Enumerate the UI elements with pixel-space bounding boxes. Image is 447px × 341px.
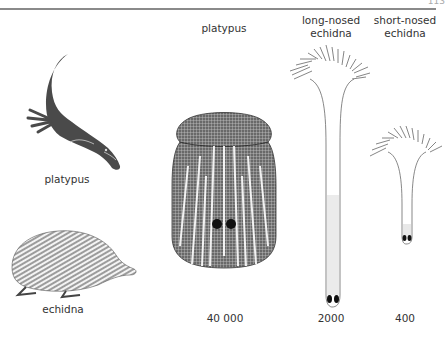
platypus-caption: platypus <box>42 173 92 186</box>
platypus-bill-illustration <box>170 106 278 272</box>
platypus-column-title: platypus <box>184 22 264 35</box>
echidna-illustration <box>6 225 141 300</box>
platypus-value: 40 000 <box>200 312 250 325</box>
short-nosed-column-title-2: echidna <box>369 27 441 40</box>
platypus-illustration <box>20 52 130 172</box>
long-nosed-column-title-2: echidna <box>296 27 366 40</box>
page-number: 113 <box>428 0 445 6</box>
header-rule <box>0 8 436 10</box>
short-nosed-echidna-snout-illustration <box>368 124 446 250</box>
long-nosed-column-title-1: long-nosed <box>296 14 366 27</box>
long-nosed-echidna-value: 2000 <box>306 312 356 325</box>
long-nosed-echidna-snout-illustration <box>288 45 374 310</box>
short-nosed-column-title-1: short-nosed <box>369 14 441 27</box>
echidna-caption: echidna <box>38 303 88 316</box>
short-nosed-echidna-value: 400 <box>380 312 430 325</box>
